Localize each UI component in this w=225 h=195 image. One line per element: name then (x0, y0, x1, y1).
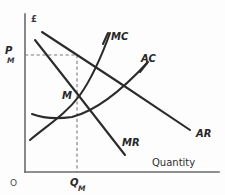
origin-label: O (10, 178, 17, 188)
curve-label-mc: MC (111, 31, 129, 42)
monopoly-quantity-subscript: M (78, 184, 86, 193)
curve-label-ac: AC (140, 53, 156, 64)
monopoly-equilibrium-diagram: £ Quantity O P M Q M MC AC AR MR M (0, 0, 225, 195)
ac-label-leader (140, 63, 147, 72)
y-axis-label: £ (31, 14, 37, 24)
curve-ar (42, 32, 190, 130)
diagram-canvas: £ Quantity O P M Q M MC AC AR MR M (0, 0, 225, 195)
curve-label-mr: MR (122, 137, 140, 148)
monopoly-price-subscript: M (7, 56, 15, 65)
monopoly-price-label: P (5, 45, 13, 56)
equilibrium-point-label: M (62, 90, 72, 101)
x-axis-label: Quantity (152, 157, 195, 168)
curve-label-ar: AR (195, 128, 211, 139)
